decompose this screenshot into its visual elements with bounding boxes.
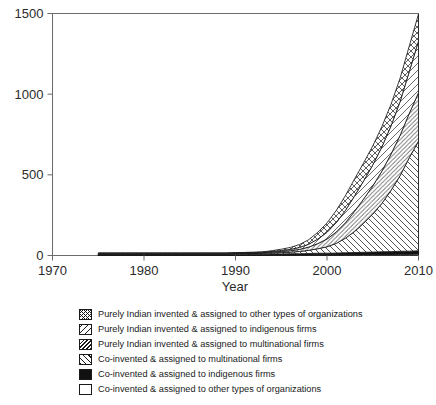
legend-swatch-back-diagonal-icon: [79, 354, 92, 365]
y-axis-tick-label: 1500: [15, 6, 44, 21]
legend-item: Co-invented & assigned to other types of…: [79, 382, 419, 397]
legend-item-label: Co-invented & assigned to multinational …: [98, 354, 282, 365]
legend-item: Purely Indian invented & assigned to mul…: [79, 337, 419, 352]
chart-legend: Purely Indian invented & assigned to oth…: [79, 307, 419, 397]
legend-item: Co-invented & assigned to indigenous fir…: [79, 367, 419, 382]
stacked-area-chart: 05001000150019701980199020002010 Year: [0, 0, 436, 300]
legend-item-label: Purely Indian invented & assigned to mul…: [98, 339, 324, 350]
legend-item-label: Co-invented & assigned to other types of…: [98, 384, 321, 395]
y-axis-tick-label: 0: [36, 248, 43, 263]
x-axis-tick-label: 1980: [130, 263, 159, 278]
legend-item: Purely Indian invented & assigned to ind…: [79, 322, 419, 337]
y-axis-tick-label: 1000: [15, 87, 44, 102]
x-axis-tick-label: 2010: [404, 263, 433, 278]
figure-container: 05001000150019701980199020002010 Year Pu…: [0, 0, 436, 405]
x-axis-title: Year: [222, 279, 249, 294]
legend-swatch-crosshatch-icon: [79, 309, 92, 320]
legend-swatch-forward-diagonal-dense-icon: [79, 339, 92, 350]
x-axis-tick-label: 2000: [313, 263, 342, 278]
legend-swatch-forward-diagonal-light-icon: [79, 324, 92, 335]
x-axis-tick-label: 1970: [38, 263, 67, 278]
area-bands: [98, 14, 418, 256]
legend-item-label: Co-invented & assigned to indigenous fir…: [98, 369, 275, 380]
legend-item: Purely Indian invented & assigned to oth…: [79, 307, 419, 322]
x-axis-tick-label: 1990: [221, 263, 250, 278]
legend-item: Co-invented & assigned to multinational …: [79, 352, 419, 367]
legend-item-label: Purely Indian invented & assigned to ind…: [98, 324, 317, 335]
legend-item-label: Purely Indian invented & assigned to oth…: [98, 309, 363, 320]
y-axis-tick-label: 500: [22, 167, 44, 182]
legend-swatch-empty-icon: [79, 384, 92, 395]
chart-plot-area: 05001000150019701980199020002010 Year: [0, 0, 436, 300]
legend-swatch-solid-black-icon: [79, 369, 92, 380]
